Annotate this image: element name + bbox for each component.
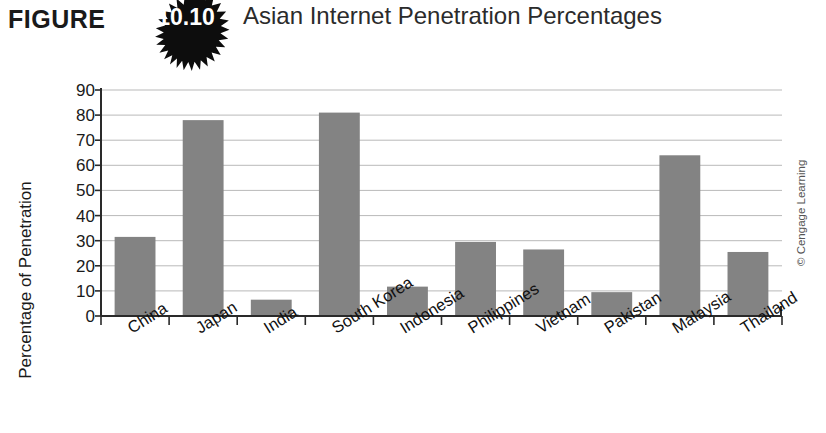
y-tick-label: 80 — [76, 106, 95, 125]
figure-header: FIGURE 10.10 Asian Internet Penetration … — [0, 0, 826, 72]
y-tick-label: 40 — [76, 207, 95, 226]
page-title: Asian Internet Penetration Percentages — [243, 2, 662, 30]
y-tick-label: 20 — [76, 257, 95, 276]
bar-chart: Percentage of Penetration 90 80 70 60 50… — [0, 72, 826, 433]
y-tick-label: 50 — [76, 181, 95, 200]
y-tick-label: 10 — [76, 282, 95, 301]
y-tick-label: 30 — [76, 232, 95, 251]
y-axis-title-text: Percentage of Penetration — [16, 181, 35, 379]
y-tick-label: 90 — [76, 81, 95, 100]
y-tick-label: 70 — [76, 131, 95, 150]
bar-south-korea — [319, 113, 360, 316]
copyright-credit: © Cengage Learning — [795, 160, 807, 266]
y-tick-label: 0 — [86, 307, 95, 326]
figure-number: 10.10 — [138, 0, 234, 80]
bar-series — [115, 113, 769, 316]
bar-japan — [183, 120, 224, 316]
bar-malaysia — [659, 155, 700, 316]
figure-label: FIGURE — [8, 5, 105, 34]
bar-china — [115, 237, 156, 316]
y-tick-label: 60 — [76, 156, 95, 175]
y-axis-title: Percentage of Penetration — [16, 181, 35, 379]
y-axis-ticks: 90 80 70 60 50 40 30 20 10 0 — [76, 81, 101, 326]
